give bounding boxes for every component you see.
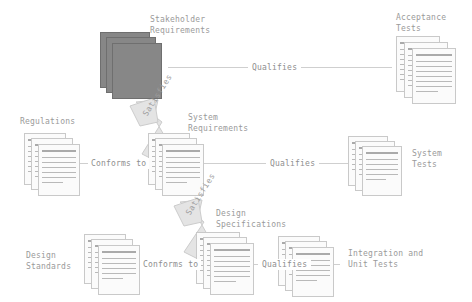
edge-label-qualifies-integration: Qualifies bbox=[258, 259, 311, 270]
node-label-system-requirements: SystemRequirements bbox=[188, 112, 248, 134]
node-label-acceptance-tests: AcceptanceTests bbox=[396, 12, 446, 34]
edge-label-conforms-to-standards: Conforms to bbox=[140, 259, 201, 270]
label-line-2: Unit Tests bbox=[348, 260, 398, 269]
document-sheet-front bbox=[38, 144, 80, 196]
document-sheet-front bbox=[292, 247, 334, 297]
node-regulations[interactable] bbox=[24, 133, 86, 199]
document-sheet-front bbox=[412, 48, 456, 104]
label-line-1: Design bbox=[216, 209, 246, 218]
node-label-integration-unit-tests: Integration andUnit Tests bbox=[348, 248, 423, 270]
node-design-standards[interactable] bbox=[84, 234, 146, 298]
node-design-specifications[interactable] bbox=[196, 232, 260, 298]
label-line-1: System bbox=[412, 149, 442, 158]
label-line-2: Tests bbox=[412, 160, 437, 169]
label-line-1: Acceptance bbox=[396, 13, 446, 22]
node-label-design-specifications: DesignSpecifications bbox=[216, 208, 286, 230]
label-line-1: Stakeholder bbox=[150, 15, 205, 24]
node-system-tests[interactable] bbox=[348, 136, 408, 198]
label-line-2: Requirements bbox=[150, 26, 210, 35]
label-line-1: Design bbox=[26, 251, 56, 260]
node-label-design-standards: DesignStandards bbox=[26, 250, 71, 272]
node-label-system-tests: SystemTests bbox=[412, 148, 442, 170]
node-acceptance-tests[interactable] bbox=[396, 36, 458, 106]
label-line-2: Requirements bbox=[188, 124, 248, 133]
document-sheet-front bbox=[210, 243, 254, 295]
edge-label-qualifies-system: Qualifies bbox=[266, 158, 319, 169]
label-line-1: Integration and bbox=[348, 249, 423, 258]
label-line-1: Regulations bbox=[20, 117, 75, 126]
label-line-2: Specifications bbox=[216, 220, 286, 229]
node-label-regulations: Regulations bbox=[20, 116, 75, 127]
diagram-canvas: Satisfies Satisfies StakeholderRequireme… bbox=[0, 0, 472, 302]
edge-label-conforms-to-regulations: Conforms to bbox=[88, 158, 149, 169]
label-line-2: Tests bbox=[396, 24, 421, 33]
node-label-stakeholder-requirements: StakeholderRequirements bbox=[150, 14, 210, 36]
document-sheet-front bbox=[98, 245, 140, 295]
document-sheet-front bbox=[362, 146, 402, 196]
edge-label-qualifies-acceptance: Qualifies bbox=[248, 62, 301, 73]
label-line-1: System bbox=[188, 113, 218, 122]
label-line-2: Standards bbox=[26, 262, 71, 271]
